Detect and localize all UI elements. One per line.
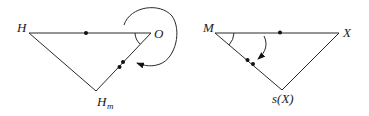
label-M: M xyxy=(202,20,215,35)
dot-left-edge-2 xyxy=(251,62,255,66)
label-Hm: H xyxy=(96,94,107,109)
label-O: O xyxy=(154,26,164,41)
right-triangle: M X s(X) xyxy=(202,20,352,106)
label-H: H xyxy=(16,20,27,35)
dot-left-edge-1 xyxy=(246,58,250,62)
angle-arc-M xyxy=(229,33,234,45)
curved-arrow-around-O xyxy=(124,8,177,66)
label-Hm-subscript: m xyxy=(107,101,114,111)
label-sX: s(X) xyxy=(272,91,294,106)
edge-X-sX xyxy=(282,33,339,90)
dot-top-edge xyxy=(278,31,282,35)
diagram-canvas: H O H m M X s(X) xyxy=(0,0,369,116)
edge-H-Hm xyxy=(29,33,96,91)
label-X: X xyxy=(342,25,352,40)
dot-right-edge-1 xyxy=(121,60,125,64)
left-triangle: H O H m xyxy=(16,8,177,111)
dot-top-edge xyxy=(84,31,88,35)
curved-arrow-to-edge xyxy=(258,36,266,59)
angle-arc-O xyxy=(135,33,140,44)
dot-right-edge-2 xyxy=(118,65,122,69)
